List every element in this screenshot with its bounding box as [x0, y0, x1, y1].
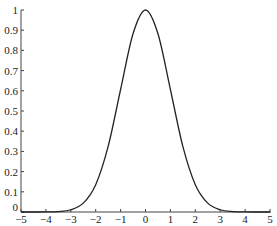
gaussian-line-chart: −5−4−3−2−101234500.10.20.30.40.50.60.70.…	[0, 0, 277, 226]
y-tick-label: 0	[13, 201, 19, 213]
ticks: −5−4−3−2−101234500.10.20.30.40.50.60.70.…	[4, 4, 273, 225]
y-tick-label: 0.5	[4, 105, 18, 117]
x-tick-label: 1	[168, 213, 174, 225]
x-tick-label: −3	[65, 213, 77, 225]
y-tick-label: 0.2	[4, 166, 18, 178]
plot-area	[21, 10, 270, 212]
y-tick-label: 1	[13, 4, 19, 16]
x-tick-label: 0	[143, 213, 149, 225]
y-tick-label: 0.6	[4, 85, 18, 97]
y-tick-label: 0.3	[4, 145, 18, 157]
chart-canvas: −5−4−3−2−101234500.10.20.30.40.50.60.70.…	[0, 0, 277, 226]
x-tick-label: 3	[217, 213, 223, 225]
x-tick-label: 5	[267, 213, 273, 225]
x-tick-label: −1	[115, 213, 127, 225]
y-tick-label: 0.1	[4, 186, 18, 198]
y-tick-label: 0.8	[4, 44, 18, 56]
x-tick-label: −5	[15, 213, 27, 225]
axes	[21, 10, 271, 212]
x-tick-label: 4	[242, 213, 248, 225]
series-line	[21, 10, 270, 212]
x-tick-label: 2	[193, 213, 199, 225]
y-tick-label: 0.9	[4, 24, 18, 36]
y-tick-label: 0.4	[4, 125, 18, 137]
x-tick-label: −4	[40, 213, 52, 225]
y-tick-label: 0.7	[4, 65, 18, 77]
x-tick-label: −2	[90, 213, 102, 225]
